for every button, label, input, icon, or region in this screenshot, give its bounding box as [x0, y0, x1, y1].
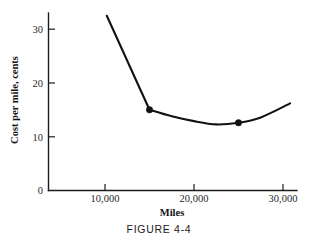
figure-caption: FIGURE 4-4: [127, 223, 192, 235]
x-tick-label-20000: 20,000: [180, 193, 209, 204]
y-tick-label-0: 0: [38, 185, 43, 196]
y-axis-title: Cost per mile, cents: [9, 56, 20, 144]
x-tick-label-30000: 30,000: [269, 193, 298, 204]
y-tick-label-20: 20: [33, 78, 44, 89]
x-axis-title: Miles: [160, 207, 185, 218]
x-tick-label-10000: 10,000: [91, 193, 120, 204]
data-point-marker: [146, 107, 152, 113]
cost-per-mile-curve: [107, 16, 290, 125]
y-tick-label-10: 10: [33, 132, 44, 143]
figure-container: 30 20 10 0 10,000 20,000 30,000 Miles Co…: [0, 0, 319, 242]
y-tick-label-30: 30: [33, 24, 44, 35]
chart-canvas: 30 20 10 0 10,000 20,000 30,000 Miles Co…: [0, 0, 319, 242]
data-point-marker: [235, 120, 241, 126]
